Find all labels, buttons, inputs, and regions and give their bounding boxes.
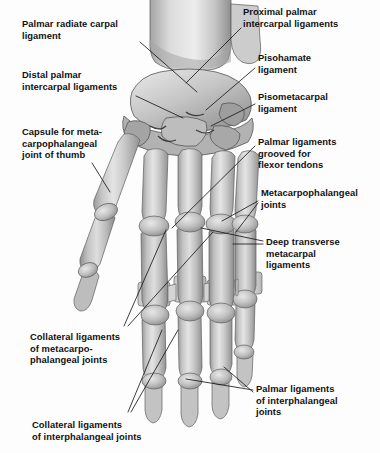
middle-ray [174,149,206,427]
label-deep-transverse-metacarpal-ligaments: Deep transverse metacarpal ligaments [266,236,340,271]
label-metacarpophalangeal-joints: Metacarpophalangeal joints [261,187,358,210]
label-palmar-ligaments-grooved-for-flexor-tendons: Palmar ligaments grooved for flexor tend… [258,136,336,171]
index-pip-knob [141,305,169,325]
middle-pip-knob [176,301,204,321]
label-proximal-palmar-intercarpal-ligaments: Proximal palmar intercarpal ligaments [243,6,338,29]
index-ray [138,149,170,423]
ring-mcp-knob [206,214,236,234]
dtml-ring-little [236,279,238,296]
label-capsule-for-metacarpophalangeal-joint-of-thumb: Capsule for meta- carpophalangeal joint … [22,126,102,161]
dtml-middle-ring [204,283,209,302]
little-ray [232,151,262,387]
little-dip-knob [234,345,254,359]
label-palmar-ligaments-of-interphalangeal-joints: Palmar ligaments of interphalangeal join… [256,383,338,418]
label-pisometacarpal-ligament: Pisometacarpal ligament [258,91,328,114]
middle-proximal-phalanx [177,224,203,312]
dtml-index-middle [168,284,176,302]
little-mcp-knob [232,215,258,233]
middle-mcp-knob [175,212,205,232]
ring-pip-knob [207,303,235,323]
label-collateral-ligaments-of-interphalangeal-joints: Collateral ligaments of interphalangeal … [32,419,142,442]
carpal-bones [123,69,254,156]
label-distal-palmar-intercarpal-ligaments: Distal palmar intercarpal ligaments [22,69,117,92]
anatomy-figure: Palmar radiate carpal ligament Distal pa… [0,0,380,453]
index-proximal-phalanx [141,228,168,316]
label-pisohamate-ligament: Pisohamate ligament [258,52,311,75]
label-palmar-radiate-carpal-ligament: Palmar radiate carpal ligament [22,18,118,41]
ring-proximal-phalanx [209,226,234,314]
label-collateral-ligaments-of-metacarpophalangeal-joints: Collateral ligaments of metacarpo- phala… [30,331,120,366]
ring-ray [206,151,238,419]
